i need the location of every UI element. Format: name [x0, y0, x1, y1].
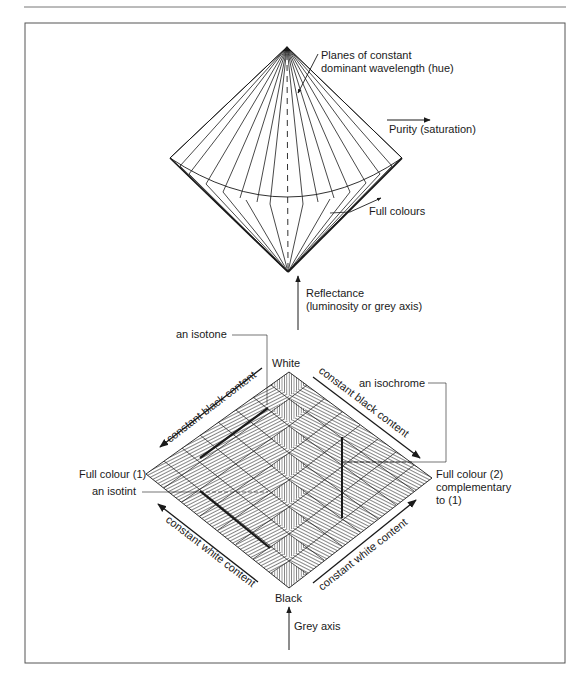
full-colour-1-label: Full colour (1)	[79, 468, 146, 480]
white-label: White	[272, 357, 300, 369]
isotint-label: an isotint	[92, 485, 136, 497]
reflectance-label-1: Reflectance	[306, 287, 364, 299]
grey-axis-label: Grey axis	[294, 620, 341, 632]
double-cone-diagram	[170, 46, 402, 272]
full-colour-2-label-3: to (1)	[436, 494, 462, 506]
lower-cone-lines	[170, 158, 402, 272]
top-annotations: Planes of constant dominant wavelength (…	[298, 49, 476, 330]
hue-planes-label-1: Planes of constant	[321, 49, 412, 61]
apex-marker	[283, 46, 291, 51]
grey-axis-dashed	[287, 54, 288, 268]
full-colour-2-label-2: complementary	[436, 481, 512, 493]
full-colour-2-label-1: Full colour (2)	[436, 468, 503, 480]
isotone-label: an isotone	[176, 328, 227, 340]
purity-label: Purity (saturation)	[389, 123, 476, 135]
black-label: Black	[275, 592, 302, 604]
full-colours-label: Full colours	[369, 205, 426, 217]
reflectance-label-2: (luminosity or grey axis)	[306, 300, 422, 312]
isochrome-label: an isochrome	[359, 377, 425, 389]
colour-solid-figure: Planes of constant dominant wavelength (…	[0, 0, 588, 687]
hue-planes-label-2: dominant wavelength (hue)	[321, 62, 454, 74]
colour-grid-diagram	[146, 372, 432, 588]
